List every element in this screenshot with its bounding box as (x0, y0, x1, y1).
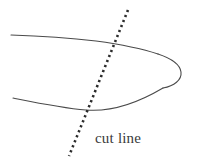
outline-group (11, 35, 181, 110)
cut-line-label: cut line (95, 130, 141, 146)
outline-top-edge (11, 35, 158, 54)
outline-right-tip (158, 54, 181, 88)
outline-bottom-edge (13, 88, 163, 110)
figure-canvas: cut line (0, 0, 197, 164)
